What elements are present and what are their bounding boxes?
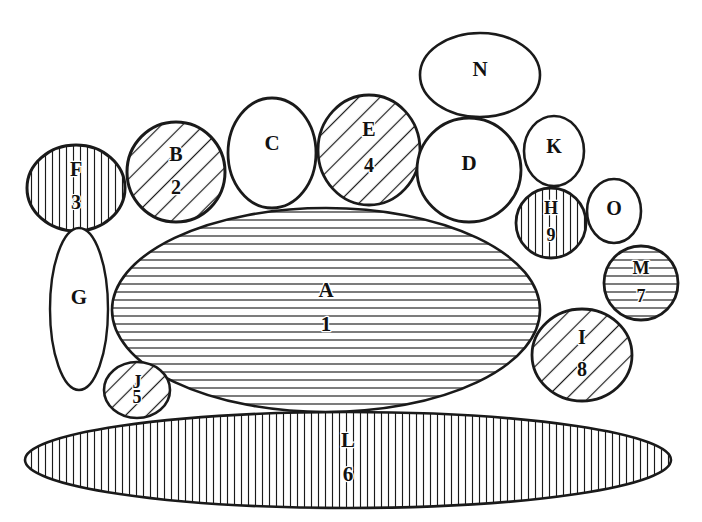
shape-letter-e: E	[362, 118, 375, 140]
shape-number-j: 5	[133, 387, 142, 407]
shape-letter-n: N	[472, 57, 487, 81]
shape-letter-c: C	[264, 131, 279, 155]
shape-letter-g: G	[71, 285, 87, 309]
shape-m[interactable]	[604, 246, 678, 320]
shape-letter-k: K	[546, 135, 562, 157]
shape-number-m: 7	[637, 286, 646, 306]
figure-canvas: A1L6F3GB2CE4DNKH9OM7I8J5	[0, 0, 702, 522]
shape-letter-f: F	[70, 158, 82, 180]
shape-letter-l: L	[341, 428, 355, 452]
shape-a[interactable]	[112, 208, 540, 412]
shape-number-l: 6	[343, 462, 354, 486]
shape-number-a: 1	[321, 312, 332, 336]
shape-letter-m: M	[633, 258, 650, 278]
shape-label-group-n: N	[472, 57, 487, 81]
shape-l[interactable]	[25, 412, 671, 508]
shape-number-e: 4	[364, 154, 374, 176]
shape-label-group-j: J5	[133, 372, 142, 407]
shape-letter-i: I	[578, 326, 586, 348]
shape-label-group-g: G	[71, 285, 87, 309]
shape-number-h: 9	[547, 225, 556, 245]
shape-e[interactable]	[318, 95, 420, 205]
shape-fill-a	[112, 208, 540, 412]
shape-letter-h: H	[544, 198, 558, 218]
shape-label-group-o: O	[606, 197, 622, 219]
shape-number-i: 8	[577, 358, 587, 380]
shape-i[interactable]	[532, 309, 632, 401]
shape-label-group-c: C	[264, 131, 279, 155]
shape-letter-d: D	[461, 151, 476, 175]
diagram-svg: A1L6F3GB2CE4DNKH9OM7I8J5	[0, 0, 702, 522]
shape-letter-a: A	[318, 278, 334, 302]
shape-letter-o: O	[606, 197, 622, 219]
shape-label-group-k: K	[546, 135, 562, 157]
shape-g[interactable]	[50, 228, 108, 390]
shape-b[interactable]	[127, 122, 225, 222]
shape-number-f: 3	[71, 191, 81, 213]
shape-label-group-d: D	[461, 151, 476, 175]
shape-letter-b: B	[169, 143, 182, 165]
shape-number-b: 2	[171, 176, 181, 198]
